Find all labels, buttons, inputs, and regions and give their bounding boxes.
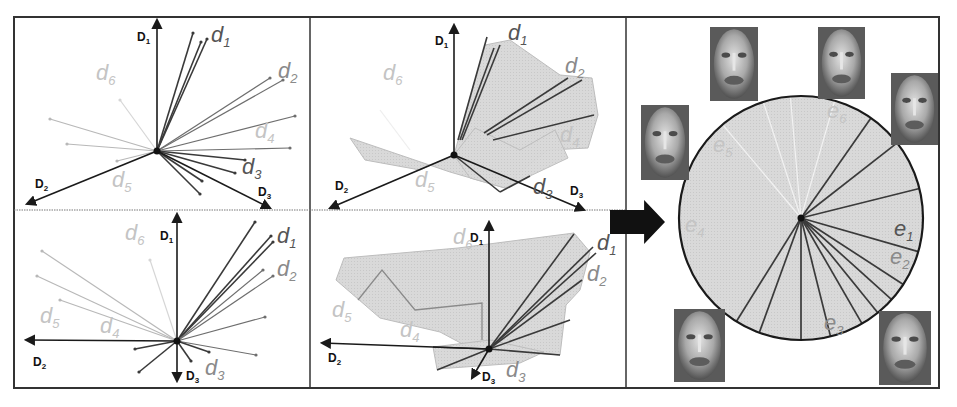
cluster-label-d1: d1 <box>597 230 616 258</box>
sample-vector <box>120 100 157 151</box>
cluster-label-d2: d2 <box>278 58 298 86</box>
cluster-label-d4: d4 <box>100 313 119 341</box>
cluster-label-d1: d1 <box>277 223 296 251</box>
vector-endpoint <box>48 117 51 120</box>
vector-endpoint <box>207 350 210 353</box>
cluster-label-d5: d5 <box>40 303 60 331</box>
nose-icon <box>903 337 906 355</box>
nose-icon <box>840 52 843 69</box>
panel-top-left: D1D2D3d1d2d4d3d5d6 <box>27 20 298 208</box>
axis-label-d2: D2 <box>33 355 47 371</box>
vector-endpoint <box>65 142 68 145</box>
cluster-label-d3: d3 <box>205 355 225 383</box>
vector-endpoint <box>191 31 194 34</box>
eye-icon <box>653 131 662 136</box>
mouth-icon <box>724 76 743 85</box>
vector-endpoint <box>200 179 203 182</box>
axis-label-d2: D2 <box>328 351 342 367</box>
vector-endpoint <box>293 114 296 117</box>
sample-vector <box>139 341 177 372</box>
face-happiness <box>641 105 689 180</box>
origin-dot <box>451 152 458 159</box>
axis-label-d3: D3 <box>482 370 496 386</box>
vector-endpoint <box>271 274 274 277</box>
cluster-label-d1: d1 <box>211 22 230 50</box>
face-anger <box>879 311 931 385</box>
center-dot <box>798 215 805 222</box>
vector-endpoint <box>261 268 264 271</box>
vector-endpoint <box>189 359 192 362</box>
mouth-icon <box>655 155 674 164</box>
eye-icon <box>738 53 747 58</box>
sample-vector <box>177 242 273 341</box>
sample-vector <box>135 341 177 349</box>
face-fear <box>818 27 865 99</box>
transform-arrow <box>610 200 665 244</box>
vector-endpoint <box>233 171 236 174</box>
vector-endpoint <box>269 234 272 237</box>
emotion-space-diagram: D1D2D3d1d2d4d3d5d6D1D2D3d1d2d4d3d5d6D1D2… <box>0 0 957 407</box>
axis-d2 <box>27 151 157 204</box>
cluster-label-d5: d5 <box>415 167 435 195</box>
nose-icon <box>733 53 736 71</box>
cluster-label-d6: d6 <box>125 220 145 248</box>
face-disgust <box>891 73 938 145</box>
vector-endpoint <box>40 249 43 252</box>
panel-bottom-middle: D1D2D3d1d2d4d3d5d6 <box>322 222 616 386</box>
vector-endpoint <box>148 258 151 261</box>
emotion-circle: e1e2e3e4e5e6 <box>679 96 923 340</box>
origin-dot <box>174 338 181 345</box>
origin-dot <box>154 148 161 155</box>
face-sadness <box>674 309 725 382</box>
cluster-label-d1: d1 <box>508 20 527 48</box>
vector-endpoint <box>205 37 208 40</box>
sample-vector <box>177 236 271 341</box>
vector-endpoint <box>268 76 271 79</box>
cluster-label-d3: d3 <box>533 174 553 202</box>
sample-vector <box>177 341 256 355</box>
convex-hull-polygon <box>336 233 590 355</box>
vector-endpoint <box>253 220 256 223</box>
eye-icon <box>909 337 918 342</box>
vector-panels: D1D2D3d1d2d4d3d5d6D1D2D3d1d2d4d3d5d6D1D2… <box>26 20 616 386</box>
eye-icon <box>845 52 853 57</box>
figure-stage: D1D2D3d1d2d4d3d5d6D1D2D3d1d2d4d3d5d6D1D2… <box>0 0 957 407</box>
vector-endpoint <box>288 146 291 149</box>
vector-endpoint <box>199 40 202 43</box>
axis-label-d3: D3 <box>570 184 584 200</box>
mouth-icon <box>832 75 851 84</box>
eye-icon <box>686 334 695 339</box>
vector-endpoint <box>254 353 257 356</box>
vector-endpoint <box>133 347 136 350</box>
nose-icon <box>664 131 667 149</box>
eye-icon <box>902 98 910 103</box>
panel-bottom-left: D1D2D3d1d2d4d3d5d6 <box>26 214 297 385</box>
cluster-label-d5: d5 <box>112 167 132 195</box>
vector-endpoint <box>35 274 38 277</box>
axis-d2 <box>26 340 177 341</box>
axis-label-d3: D3 <box>186 369 200 385</box>
origin-dot <box>486 346 493 353</box>
axis-label-d1: D1 <box>137 30 151 46</box>
vector-endpoint <box>263 315 266 318</box>
cluster-label-d3: d3 <box>242 154 262 182</box>
vector-endpoint <box>58 298 61 301</box>
axis-label-d1: D1 <box>160 229 174 245</box>
vector-endpoint <box>271 240 274 243</box>
eye-icon <box>722 53 731 58</box>
axis-label-d2: D2 <box>35 177 49 193</box>
axis-label-d3: D3 <box>258 185 272 201</box>
axis-label-d1: D1 <box>435 34 449 50</box>
mouth-icon <box>905 121 924 130</box>
eye-icon <box>704 334 713 339</box>
cluster-label-d6: d6 <box>453 224 473 252</box>
sample-vector <box>50 119 157 151</box>
nose-icon <box>913 98 916 115</box>
sample-vector <box>157 148 290 151</box>
cluster-label-d2: d2 <box>587 261 607 289</box>
vector-endpoint <box>115 159 118 162</box>
eye-icon <box>829 52 837 57</box>
face-surprise <box>710 27 758 101</box>
vector-endpoint <box>198 192 201 195</box>
sample-vector <box>177 270 263 341</box>
